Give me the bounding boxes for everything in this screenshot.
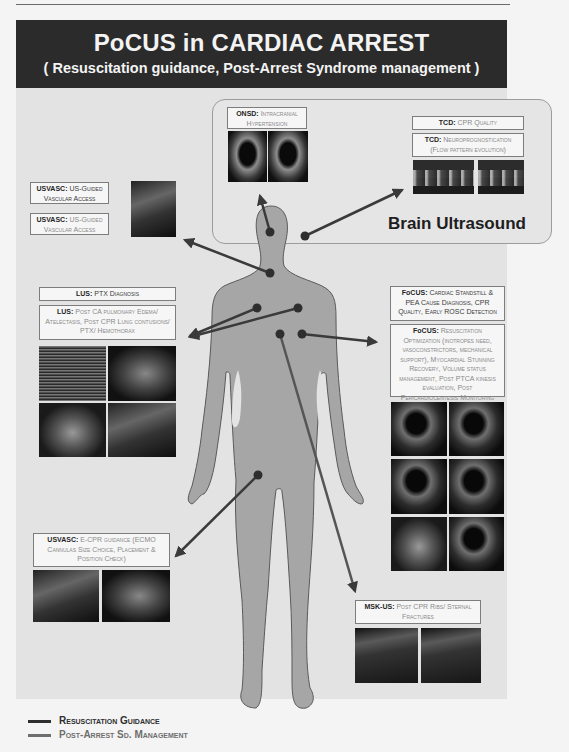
msk-fractures-box: MSK-US: Post CPR Ribs/ Sternal Fractures: [355, 600, 481, 624]
focus-optimization-box: FoCUS: Resuscitation Optimization (inotr…: [390, 324, 505, 397]
focus-echo-image-5: [391, 517, 447, 571]
lus-image-4: [108, 403, 176, 457]
focus-echo-image-4: [449, 459, 504, 514]
legend-item-post-arrest: Post-Arrest Sd. Management: [28, 729, 188, 740]
lus-image-3: [39, 403, 106, 457]
lus-ptx-box: LUS: PTX Diagnosis: [39, 287, 176, 301]
legend-swatch-gray: [28, 734, 51, 737]
lus-image-2: [108, 346, 176, 401]
focus-echo-image-1: [391, 402, 447, 456]
usvasc-access-box-1: USVASC: US-Guided Vascular Access: [30, 182, 109, 204]
body-silhouette: [188, 206, 363, 708]
tcd-neuroprognostication-box: TCD: Neuroprognostication (Flow pattern …: [412, 133, 524, 157]
legend-swatch-dark: [28, 720, 51, 723]
msk-image-1: [355, 628, 418, 683]
lus-post-ca-box: LUS: Post CA pulmonary Edema/ Atelectasi…: [39, 305, 176, 340]
usvasc-access-box-2: USVASC: US-Guided Vascular Access: [30, 213, 109, 235]
onsd-ultrasound-image-2: [268, 131, 308, 182]
onsd-ultrasound-image-1: [228, 131, 267, 182]
onsd-label-box: ONSD: Intracranial Hypertension: [227, 107, 307, 129]
ecpr-image-2: [102, 570, 170, 622]
lus-image-mmode: [39, 346, 106, 401]
tcd-cpr-quality-box: TCD: CPR Quality: [412, 116, 524, 130]
tcd-doppler-image-2: [478, 160, 524, 194]
focus-echo-image-2: [449, 402, 504, 456]
ecpr-image-1: [33, 570, 99, 622]
focus-standstill-box: FoCUS: Cardiac Standstill & PEA Cause Di…: [390, 286, 505, 321]
focus-echo-image-6: [449, 517, 504, 571]
tcd-doppler-image-1: [413, 160, 474, 194]
msk-image-2: [421, 628, 481, 683]
ecpr-guidance-box: USVASC: E-CPR guidance (ECMO Cannulas Si…: [33, 533, 170, 567]
vascular-access-ultrasound-image: [131, 181, 176, 237]
legend-item-resuscitation: Resuscitation Guidance: [28, 715, 160, 726]
focus-echo-image-3: [391, 459, 447, 514]
